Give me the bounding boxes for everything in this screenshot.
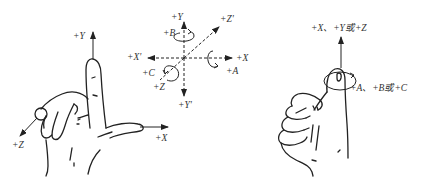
left-y-label: +Y <box>73 32 85 42</box>
left-x-label: +X <box>155 134 167 144</box>
cross-c-label: +C <box>142 69 155 79</box>
left-z-axis-arrow <box>20 118 37 136</box>
right-rotary-label: +A、+B或+C <box>350 84 407 94</box>
cross-z-prime-label: +Z' <box>220 15 234 25</box>
cross-z-label: +Z <box>153 83 165 93</box>
right-linear-label: +X、+Y或+Z <box>311 24 367 34</box>
left-hand-illustration <box>35 59 143 176</box>
rotation-c-arrow <box>164 66 178 81</box>
right-hand-illustration <box>279 69 348 176</box>
cross-y-prime-label: +Y' <box>178 101 192 111</box>
cross-y-label: +Y <box>171 13 183 23</box>
cross-x-prime-label: +X' <box>127 53 141 63</box>
cross-a-label: +A <box>226 67 238 77</box>
z-prime-axis-arrow <box>184 27 219 58</box>
left-z-label: +Z <box>12 141 24 151</box>
z-axis-line <box>160 58 184 80</box>
coordinate-diagram: +Y +Z +X +Y +B +Z' +X' +X +C +A +Z +Y' +… <box>0 0 421 184</box>
cross-b-label: +B <box>163 29 175 39</box>
cross-x-label: +X <box>236 54 248 64</box>
